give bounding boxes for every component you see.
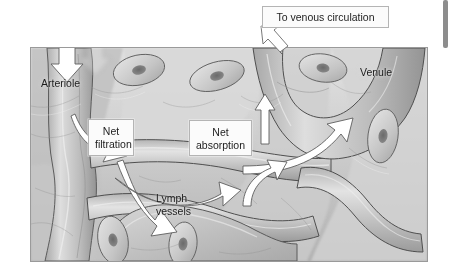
callout-to-venous-circulation: To venous circulation: [262, 6, 389, 28]
label-lymph-vessels: Lymph vessels: [156, 192, 191, 217]
label-arteriole: Arteriole: [41, 77, 80, 90]
scrollbar-thumb[interactable]: [443, 0, 448, 48]
page-canvas: To venous circulation Net filtration Net…: [0, 0, 450, 276]
callout-net-absorption: Net absorption: [189, 120, 252, 156]
scrollbar-track[interactable]: [443, 0, 450, 276]
callout-net-filtration: Net filtration: [88, 119, 134, 156]
arrow-to-venous-circulation: [258, 24, 298, 54]
label-venule: Venule: [360, 66, 392, 79]
